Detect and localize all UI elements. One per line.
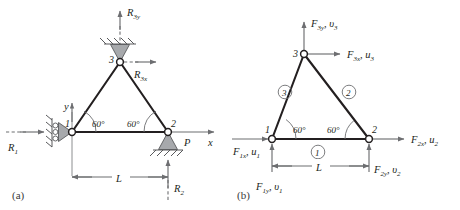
panel-b: F3y, υ3 F3x, u3 60° 60° 3: [232, 18, 439, 202]
truss-figure-svg: R3y R3x: [0, 0, 460, 210]
truss-members-a: [72, 62, 168, 132]
joint-node-3-b: [301, 51, 308, 58]
reaction-R3y-label: R3y: [126, 7, 141, 21]
load-P-label: P: [183, 137, 191, 148]
angle-arc-node-2-b: [345, 121, 354, 140]
element-1-label: 1: [315, 148, 320, 158]
angle-arc-node-2-a: [144, 111, 156, 132]
x-axis-label: x: [207, 137, 213, 148]
node-label-2-a: 2: [171, 118, 176, 129]
node-label-1-b: 1: [265, 124, 270, 135]
joint-node-2-a: [165, 129, 172, 136]
reaction-R3x-label: R3x: [133, 69, 148, 83]
element-1-marker: 1: [311, 145, 325, 159]
panel-a: R3y R3x: [6, 7, 214, 202]
panel-label-b: (b): [237, 189, 250, 202]
force-F3y-label: F3y, υ3: [310, 18, 338, 32]
angle-label-node-2-b: 60°: [327, 125, 340, 135]
joint-node-3-a: [117, 59, 124, 66]
panel-label-a: (a): [12, 189, 25, 202]
figure-container: R3y R3x: [0, 0, 460, 210]
force-F3x-label: F3x, u3: [346, 49, 375, 63]
angle-label-node-2-a: 60°: [127, 119, 140, 129]
element-2-label: 2: [346, 88, 351, 98]
node-label-3-a: 3: [108, 54, 114, 65]
node-label-3-b: 3: [292, 48, 298, 59]
node-label-1-a: 1: [65, 118, 70, 129]
force-F2y-label: F2y, υ2: [373, 164, 401, 178]
reaction-R1-label: R1: [7, 142, 18, 156]
joint-node-1-b: [269, 136, 276, 143]
angle-label-node-1-a: 60°: [92, 119, 105, 129]
node-label-2-b: 2: [372, 124, 377, 135]
y-axis-label: y: [63, 101, 69, 112]
force-F1x-label: F1x, u1: [232, 146, 260, 160]
force-F2x-label: F2x, u2: [410, 134, 439, 148]
joint-node-2-b: [366, 136, 373, 143]
element-3-label: 3: [281, 88, 287, 98]
span-dimension-label-a: L: [115, 173, 122, 184]
node-numbers: 1 2 3 1 2 3: [65, 48, 377, 135]
force-F1y-label: F1y, υ1: [255, 181, 283, 195]
span-dimension-label-b: L: [315, 162, 322, 173]
reaction-R2-label: R2: [173, 183, 184, 197]
element-2-marker: 2: [342, 85, 356, 99]
angle-label-node-1-b: 60°: [293, 125, 306, 135]
joint-node-1-a: [69, 129, 76, 136]
